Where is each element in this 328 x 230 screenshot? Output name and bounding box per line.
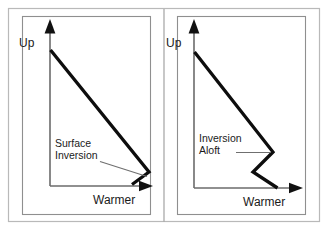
y-axis-arrowhead-right: [189, 19, 200, 34]
annotation-leader-left: [100, 162, 147, 177]
inversion-diagram: Up Warmer Surface Inversion Up Warmer In…: [0, 0, 328, 230]
x-axis-label-right: Warmer: [243, 195, 285, 209]
panel-frame-left: [23, 17, 151, 215]
annotation-left-line1: Surface: [55, 137, 91, 149]
profile-line-inversion-aloft: [195, 52, 278, 188]
annotation-right-line1: Inversion: [199, 132, 242, 144]
annotation-left-line2: Inversion: [55, 149, 98, 161]
panel-frame-right: [178, 17, 306, 215]
diagram-canvas: Up Warmer Surface Inversion Up Warmer In…: [0, 0, 328, 230]
y-axis-label-right: Up: [166, 36, 182, 50]
y-axis-label-left: Up: [19, 36, 35, 50]
x-axis-arrowhead-right: [289, 183, 303, 193]
profile-line-surface-inversion: [51, 50, 150, 185]
panel-inversion-aloft: Up Warmer Inversion Aloft: [166, 17, 306, 215]
y-axis-arrowhead-left: [45, 19, 56, 34]
panel-surface-inversion: Up Warmer Surface Inversion: [19, 17, 153, 215]
annotation-right-line2: Aloft: [199, 144, 220, 156]
x-axis-label-left: Warmer: [93, 193, 135, 207]
